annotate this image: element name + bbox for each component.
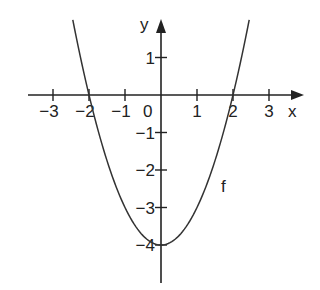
y-tick-label: −1 [136, 124, 155, 143]
x-axis-ticks: −3−2−1123 [39, 89, 273, 121]
x-tick-label: −3 [39, 102, 58, 121]
y-tick-label: 1 [146, 49, 155, 68]
y-tick-label: −3 [136, 199, 155, 218]
y-axis-arrow-icon [156, 19, 166, 33]
x-axis-arrow-icon [291, 90, 304, 100]
parabola-chart: −3−2−1123 1−1−2−3−4 0 x y f [0, 0, 320, 290]
x-tick-label: 1 [192, 102, 201, 121]
origin-label: 0 [143, 102, 152, 121]
x-tick-label: 3 [264, 102, 273, 121]
y-tick-label: −2 [136, 161, 155, 180]
y-axis-label: y [140, 15, 149, 34]
x-tick-label: −1 [111, 102, 130, 121]
y-axis-ticks: 1−1−2−3−4 [136, 49, 167, 256]
x-axis-label: x [288, 102, 297, 121]
function-label: f [221, 177, 226, 196]
